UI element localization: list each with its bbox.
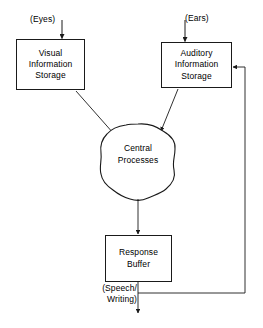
node-label-line: Visual [39, 48, 63, 59]
node-visual-information-storage: Visual Information Storage [16, 39, 85, 90]
edge-label-writing: Writing) [62, 294, 137, 305]
node-central-processes-label: Central Processes [100, 143, 176, 166]
node-label-line: Information [175, 59, 219, 70]
node-label-line: Storage [181, 71, 211, 82]
edge-label-ears: (Ears) [185, 13, 209, 24]
node-label-line: Buffer [127, 259, 150, 270]
node-label-line: Processes [100, 155, 176, 167]
node-auditory-information-storage: Auditory Information Storage [161, 42, 232, 88]
edge-auditory-to-central [161, 89, 178, 131]
node-label-line: Storage [35, 70, 65, 81]
edge-label-eyes: (Eyes) [30, 14, 55, 25]
node-label-line: Auditory [181, 48, 213, 59]
node-response-buffer: Response Buffer [105, 235, 172, 282]
edge-label-speech: (Speech/ [62, 283, 137, 294]
edge-visual-to-central [76, 91, 114, 134]
node-label-line: Central [100, 143, 176, 155]
node-label-line: Response [119, 247, 158, 258]
edge-label-speech-writing: (Speech/ Writing) [62, 283, 137, 304]
node-label-line: Information [29, 59, 73, 70]
